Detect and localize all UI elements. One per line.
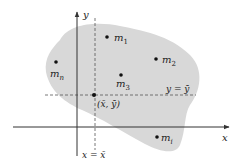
center-of-mass-diagram: x y m1 m2 m3 mn mi (x̄, ȳ) y = ȳ x = x̄ [0,0,241,162]
x-axis-label: x [222,132,228,143]
point-mn [54,60,58,64]
point-mi [155,135,159,139]
centroid-label: (x̄, ȳ) [97,99,120,109]
centroid-point [92,93,96,97]
point-m1 [105,35,109,39]
y-axis-label: y [82,9,89,20]
horizontal-guide-label: y = ȳ [165,84,190,94]
vertical-guide-label: x = x̄ [82,150,106,160]
point-m2 [154,57,158,61]
point-m3 [119,73,123,77]
